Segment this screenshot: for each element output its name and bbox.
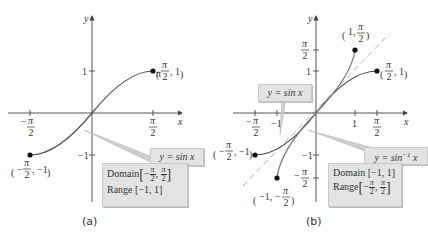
svg-text:1,: 1, <box>348 26 356 37</box>
point-label-pi2-1: π ( π 2 , 1 ) <box>156 59 183 82</box>
tick-label-pi-over-2: π 2 <box>149 115 157 138</box>
curve-label-var: x <box>411 152 418 163</box>
tick-label-neg-pi-over-2: − π 2 <box>21 115 35 138</box>
svg-text:π: π <box>162 59 168 70</box>
domain-row: Domain [−1, 1] <box>333 166 397 179</box>
tick-label-neg1: −1 <box>271 118 282 129</box>
svg-text:π: π <box>374 115 380 126</box>
endpoint-dot <box>150 68 155 73</box>
svg-text:2: 2 <box>375 127 380 138</box>
tick-label-1: 1 <box>352 118 357 129</box>
callout-leader <box>84 130 150 162</box>
x-axis-label: x <box>177 116 183 127</box>
domain-label: Domain <box>333 167 365 178</box>
point-label-pi2-1: ( π 2 , 1 ) <box>380 59 407 82</box>
svg-text:−: − <box>21 116 27 127</box>
svg-text:): ) <box>366 30 369 42</box>
tick-label-pi-over-2: π 2 <box>373 115 381 138</box>
y-axis-label: y <box>83 13 89 24</box>
domain-value: [−1, 1] <box>368 167 395 178</box>
svg-text:2: 2 <box>254 127 259 138</box>
svg-text:(: ( <box>213 149 217 161</box>
endpoint-dot <box>374 68 379 73</box>
point-label-neg-pi2-neg1: ( − π 2 , −1 ) <box>11 157 50 180</box>
tick-label-y-neg-pi-over-2: − π 2 <box>294 166 309 189</box>
point-label-neg-pi2-neg1: ( − π 2 , −1 ) <box>213 139 252 162</box>
point-label-1-pi2: ( 1, π 2 ) <box>342 21 369 44</box>
callout-leader-sin <box>280 98 286 135</box>
range-value: [−1, 1] <box>135 184 162 195</box>
svg-text:): ) <box>291 195 294 207</box>
domain-row: Domain[−π2, π2] <box>107 166 183 183</box>
svg-text:π: π <box>226 139 232 150</box>
svg-text:2: 2 <box>387 71 392 82</box>
svg-text:, 1: , 1 <box>170 66 180 77</box>
svg-text:2: 2 <box>29 127 34 138</box>
point-label-neg1-neg-pi2: ( −1, − π 2 ) <box>253 185 294 208</box>
curve-label-sin-b: y = sin x <box>258 84 312 102</box>
curve-label-text: y = sin x <box>268 87 303 98</box>
inverse-superscript: −1 <box>402 151 410 159</box>
svg-text:−: − <box>294 170 300 181</box>
svg-text:2: 2 <box>151 127 156 138</box>
endpoint-dot <box>352 47 357 52</box>
svg-text:): ) <box>249 149 252 161</box>
svg-text:π: π <box>253 115 259 126</box>
endpoint-dot <box>252 152 257 157</box>
range-row: Range[−π2, π2] <box>333 179 397 196</box>
svg-text:2: 2 <box>284 197 289 208</box>
y-axis-label: y <box>307 13 313 24</box>
svg-text:π: π <box>358 21 364 32</box>
range-row: Range [−1, 1] <box>107 183 183 196</box>
range-label: Range <box>333 181 359 192</box>
svg-text:, 1: , 1 <box>394 66 404 77</box>
caption-a: (a) <box>82 215 97 228</box>
tick-label-y-pi-over-2: π 2 <box>301 38 309 61</box>
svg-text:−1, −: −1, − <box>259 191 281 202</box>
svg-text:2: 2 <box>227 151 232 162</box>
domain-label: Domain <box>107 168 139 179</box>
tick-label-1: 1 <box>82 66 87 77</box>
svg-text:(: ( <box>253 195 257 207</box>
svg-text:(: ( <box>380 69 384 81</box>
svg-text:π: π <box>24 157 30 168</box>
svg-text:π: π <box>283 185 289 196</box>
svg-text:(: ( <box>11 167 15 179</box>
svg-text:(: ( <box>342 30 346 42</box>
svg-text:, −1: , −1 <box>234 146 250 157</box>
caption-b: (b) <box>306 215 322 228</box>
svg-text:π: π <box>386 59 392 70</box>
range-label: Range <box>107 184 133 195</box>
endpoint-dot <box>274 175 279 180</box>
tick-label-y-1: 1 <box>306 66 311 77</box>
svg-text:): ) <box>47 167 50 179</box>
svg-text:−: − <box>17 164 23 175</box>
info-box-b: Domain [−1, 1] Range[−π2, π2] <box>328 163 402 207</box>
svg-text:π: π <box>302 166 308 177</box>
svg-text:2: 2 <box>359 33 364 44</box>
svg-text:2: 2 <box>303 50 308 61</box>
tick-label-neg1: −1 <box>78 150 89 161</box>
svg-text:π: π <box>302 38 308 49</box>
svg-text:, −1: , −1 <box>32 164 48 175</box>
tick-label-y-neg1: −1 <box>302 150 313 161</box>
svg-text:2: 2 <box>163 71 168 82</box>
svg-text:−: − <box>219 146 225 157</box>
curve-label-text: y = sin x <box>160 151 195 162</box>
curve-label-text: y = sin <box>374 152 402 163</box>
svg-text:2: 2 <box>303 178 308 189</box>
x-axis-label: x <box>403 116 409 127</box>
tick-label-neg-pi-over-2: − π 2 <box>246 115 260 138</box>
svg-text:π: π <box>150 115 156 126</box>
svg-text:π: π <box>28 115 34 126</box>
svg-text:2: 2 <box>25 169 30 180</box>
info-box-a: Domain[−π2, π2] Range [−1, 1] <box>102 163 188 207</box>
svg-text:): ) <box>404 69 407 81</box>
svg-text:−: − <box>246 116 252 127</box>
svg-text:): ) <box>180 69 183 81</box>
